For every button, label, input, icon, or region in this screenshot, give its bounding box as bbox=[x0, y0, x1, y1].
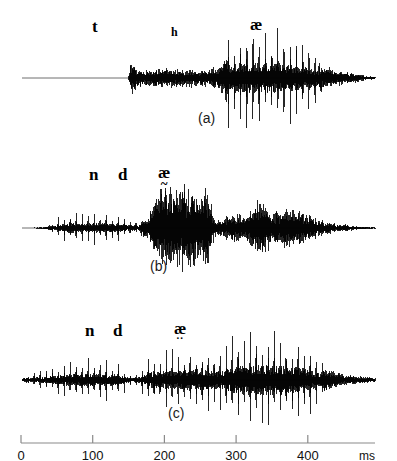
time-axis-tick-label: 400 bbox=[297, 448, 319, 461]
phoneme-label-t: t bbox=[92, 18, 98, 35]
waveform-panel-b: n d æ ~ (b) bbox=[0, 150, 397, 300]
phoneme-label-ae-breathy: æ .. bbox=[174, 320, 186, 341]
panel-caption-b: (b) bbox=[150, 258, 167, 274]
time-axis-tick-label: 0 bbox=[17, 448, 24, 461]
time-axis-unit-label: ms bbox=[359, 449, 375, 461]
phoneme-label-d: d bbox=[113, 322, 122, 339]
time-axis: 0100200300400 ms bbox=[0, 425, 397, 461]
panel-caption-a: (a) bbox=[198, 110, 215, 126]
waveform-plot-b bbox=[0, 150, 397, 300]
waveform-plot-a bbox=[0, 0, 397, 150]
waveform-panel-c: n d æ .. (c) bbox=[0, 300, 397, 425]
phoneme-label-ae-nasalized: æ ~ bbox=[158, 164, 170, 190]
panel-caption-c: (c) bbox=[168, 405, 184, 421]
phoneme-label-n: n bbox=[85, 322, 94, 339]
waveform-plot-c bbox=[0, 300, 397, 425]
time-axis-tick-label: 300 bbox=[225, 448, 247, 461]
time-axis-tick-label: 200 bbox=[154, 448, 176, 461]
waveform-panel-a: t h æ (a) bbox=[0, 0, 397, 150]
time-axis-tick-label: 100 bbox=[82, 448, 104, 461]
phoneme-label-ae: æ bbox=[250, 16, 262, 33]
phoneme-label-n: n bbox=[89, 166, 98, 183]
phoneme-label-h: h bbox=[171, 26, 178, 38]
time-axis-line bbox=[0, 425, 397, 461]
speech-waveform-figure: t h æ (a) n d æ ~ (b) n d æ .. (c) 01002… bbox=[0, 0, 397, 461]
phoneme-label-d: d bbox=[118, 166, 127, 183]
